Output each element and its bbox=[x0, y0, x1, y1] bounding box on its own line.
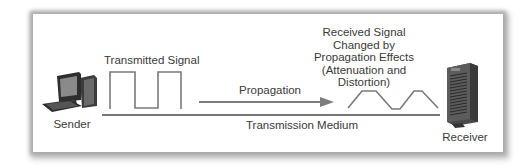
transmitted-signal-label: Transmitted Signal bbox=[104, 54, 199, 66]
propagation-arrow-icon bbox=[199, 97, 334, 107]
sender-label: Sender bbox=[53, 118, 90, 130]
received-signal-line-1: Received Signal bbox=[312, 26, 416, 39]
distorted-wave bbox=[348, 91, 438, 109]
propagation-label: Propagation bbox=[239, 84, 301, 96]
transmission-medium-label: Transmission Medium bbox=[246, 119, 358, 131]
desktop-computer-icon bbox=[42, 72, 97, 112]
square-wave bbox=[110, 72, 181, 109]
received-signal-line-4: (Attenuation and bbox=[312, 64, 416, 77]
received-signal-label: Received Signal Changed by Propagation E… bbox=[312, 26, 416, 89]
received-signal-line-2: Changed by bbox=[312, 39, 416, 52]
receiver-label: Receiver bbox=[442, 131, 487, 143]
received-signal-line-3: Propagation Effects bbox=[312, 51, 416, 64]
server-tower-icon bbox=[447, 63, 478, 128]
received-signal-line-5: Distortion) bbox=[312, 76, 416, 89]
